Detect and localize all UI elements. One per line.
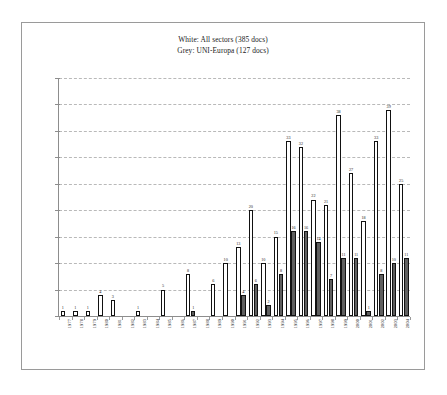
bar-group: 181: [360, 78, 373, 316]
bar-uni-europa: [291, 231, 296, 316]
plot-area: 1114315816101342061021583316321622142173…: [58, 78, 410, 316]
bar-group: 2711: [347, 78, 360, 316]
bar-value-label: 16: [291, 225, 295, 230]
bar-group: 1: [72, 78, 85, 316]
bar-value-label: 16: [304, 225, 308, 230]
bar-value-label: 5: [162, 283, 164, 288]
bar-value-label: 1: [74, 305, 76, 310]
bar-value-label: 1: [192, 305, 194, 310]
bar-value-label: 14: [316, 236, 320, 241]
bar-group: [197, 78, 210, 316]
bar-group: 2511: [397, 78, 410, 316]
legend-entry-uni-europa: Grey: UNI-Europa (127 docs): [22, 46, 424, 57]
bar-all-sectors: [211, 284, 216, 316]
x-axis-tick: [410, 317, 411, 320]
bar-all-sectors: [386, 110, 391, 316]
bar-uni-europa: [279, 274, 284, 316]
x-axis-label: 1994: [280, 319, 285, 328]
bar-group: 3910: [385, 78, 398, 316]
bar-group: 3316: [285, 78, 298, 316]
x-axis-label: 2001: [368, 319, 373, 328]
bar-value-label: 11: [354, 252, 358, 257]
x-axis-label: 1978: [79, 319, 84, 328]
bar-value-label: 38: [336, 109, 340, 114]
bar-group: 81: [184, 78, 197, 316]
x-axis-label: 1989: [217, 319, 222, 328]
bar-group: 4: [97, 78, 110, 316]
bar-uni-europa: [241, 295, 246, 316]
bar-all-sectors: [286, 141, 291, 316]
x-axis-label: 1979: [92, 319, 97, 328]
bar-all-sectors: [236, 247, 241, 316]
bar-value-label: 33: [286, 135, 290, 140]
x-axis-label: 1996: [305, 319, 310, 328]
bar-value-label: 27: [349, 167, 353, 172]
bar-value-label: 8: [187, 268, 189, 273]
x-axis-label: 1980: [104, 319, 109, 328]
bar-uni-europa: [366, 311, 371, 316]
bar-all-sectors: [336, 115, 341, 316]
x-axis-label: 1983: [142, 319, 147, 328]
x-axis-label: 2000: [355, 319, 360, 328]
bar-value-label: 3: [112, 294, 114, 299]
bar-all-sectors: [261, 263, 266, 316]
bar-group: 2214: [310, 78, 323, 316]
bar-all-sectors: [249, 210, 254, 316]
bar-value-label: 4: [242, 289, 244, 294]
x-axis-label: 1988: [205, 319, 210, 328]
bar-all-sectors: [324, 205, 329, 316]
bar-group: 3216: [297, 78, 310, 316]
bar-value-label: 33: [374, 135, 378, 140]
bar-all-sectors: [98, 295, 103, 316]
bar-value-label: 4: [99, 289, 101, 294]
bar-value-label: 39: [387, 104, 391, 109]
bar-uni-europa: [379, 274, 384, 316]
bar-group: 10: [222, 78, 235, 316]
bar-value-label: 10: [392, 257, 396, 262]
bar-all-sectors: [186, 274, 191, 316]
bar-group: [172, 78, 185, 316]
bar-value-label: 8: [280, 268, 282, 273]
x-axis-label: 1987: [192, 319, 197, 328]
bar-all-sectors: [274, 237, 279, 316]
bar-value-label: 1: [368, 305, 370, 310]
bar-value-label: 1: [87, 305, 89, 310]
x-axis-label: 1992: [255, 319, 260, 328]
bar-value-label: 21: [324, 199, 328, 204]
bar-value-label: 11: [342, 252, 346, 257]
x-axis-labels: 1977197819791980198119821983198419851986…: [59, 319, 410, 365]
bar-group: 338: [372, 78, 385, 316]
bar-group: 158: [272, 78, 285, 316]
bar-all-sectors: [61, 311, 66, 316]
bar-uni-europa: [304, 231, 309, 316]
x-axis-label: 2003: [393, 319, 398, 328]
bar-all-sectors: [161, 290, 166, 316]
bar-group: 1: [84, 78, 97, 316]
bar-group: 217: [322, 78, 335, 316]
bar-value-label: 7: [330, 273, 332, 278]
bar-group: 134: [235, 78, 248, 316]
bar-value-label: 18: [362, 215, 366, 220]
bar-value-label: 6: [255, 278, 257, 283]
bar-uni-europa: [316, 242, 321, 316]
bar-value-label: 15: [274, 230, 278, 235]
bar-all-sectors: [311, 200, 316, 316]
bar-series-container: 1114315816101342061021583316321622142173…: [59, 78, 410, 316]
x-axis-label: 1991: [242, 319, 247, 328]
bar-uni-europa: [392, 263, 397, 316]
bar-all-sectors: [136, 311, 141, 316]
x-axis-label: 2004: [405, 319, 410, 328]
x-axis-label: 1998: [330, 319, 335, 328]
bar-group: [122, 78, 135, 316]
bar-value-label: 8: [380, 268, 382, 273]
bar-all-sectors: [361, 221, 366, 316]
bar-uni-europa: [404, 258, 409, 316]
x-axis-label: 1985: [167, 319, 172, 328]
bar-all-sectors: [374, 141, 379, 316]
x-axis-label: 1993: [267, 319, 272, 328]
x-axis-label: 1981: [117, 319, 122, 328]
x-axis-label: 1990: [230, 319, 235, 328]
bar-group: 3811: [335, 78, 348, 316]
bar-value-label: 20: [249, 204, 253, 209]
x-axis-label: 1986: [180, 319, 185, 328]
